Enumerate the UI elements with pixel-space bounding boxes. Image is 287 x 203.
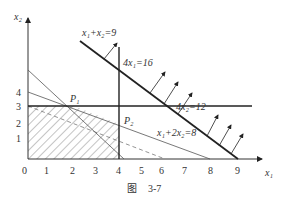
gradient-arrow [150, 72, 165, 93]
feasible-region [28, 106, 119, 159]
c3-label: x₁+2x₂=8 [156, 127, 196, 138]
point-p2-label: P₂ [123, 115, 134, 126]
point-p1-label: P₁ [69, 93, 80, 104]
x-tick: 0 [22, 165, 27, 176]
x-tick: 1 [44, 165, 49, 176]
x-tick: 7 [182, 165, 187, 176]
x-tick: 3 [93, 165, 98, 176]
gradient-arrow [104, 43, 117, 59]
gradient-arrow [207, 115, 218, 136]
x-axis-label: x₁ [264, 167, 273, 178]
x-tick: 8 [208, 165, 213, 176]
y-axis-label: x₂ [13, 11, 22, 22]
x-tick: 2 [70, 165, 75, 176]
gradient-arrow [231, 134, 243, 154]
x-tick: 6 [159, 165, 164, 176]
c1-label: 4x₁=16 [123, 57, 153, 68]
y-tick: 4 [16, 87, 21, 98]
y-tick: 2 [16, 118, 21, 129]
lp-diagram: x₂ x₁ 4 3 2 1 0 1 2 3 4 5 6 7 8 9 x₁+x₂=… [0, 0, 287, 203]
y-tick: 3 [16, 101, 21, 112]
x-tick: 4 [116, 165, 121, 176]
objective-label: x₁+x₂=9 [81, 27, 116, 38]
figure-caption-prefix: 图 [127, 183, 137, 194]
x-tick: 5 [139, 165, 144, 176]
c2-label: 4x₂=12 [176, 101, 206, 112]
y-tick: 1 [16, 133, 21, 144]
figure-caption-number: 3-7 [148, 183, 161, 194]
gradient-arrow [219, 125, 231, 146]
x-tick: 9 [235, 165, 240, 176]
